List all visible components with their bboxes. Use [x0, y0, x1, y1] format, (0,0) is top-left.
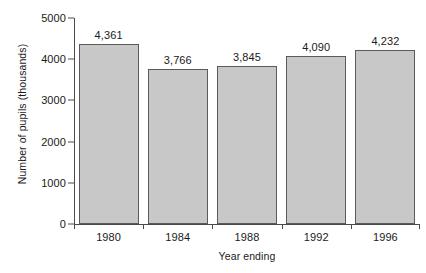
- x-axis-tick-label: 1988: [235, 231, 260, 243]
- x-axis-tick-label: 1996: [373, 231, 398, 243]
- bar-group: 4,361: [79, 18, 139, 224]
- bar-value-label: 3,766: [164, 54, 192, 66]
- plot-area: 4,3613,7663,8454,0904,232: [74, 18, 420, 224]
- x-axis-tick-mark: [212, 225, 213, 229]
- bar[interactable]: [79, 44, 139, 224]
- y-axis-tick-labels: 010002000300040005000: [22, 0, 66, 273]
- bar-value-label: 4,361: [95, 29, 123, 41]
- x-axis-tick-label: 1984: [165, 231, 190, 243]
- bar-group: 3,766: [148, 18, 208, 224]
- x-axis-tick-mark: [74, 225, 75, 229]
- x-axis-tick-mark: [351, 225, 352, 229]
- bar[interactable]: [148, 69, 208, 224]
- x-axis-title: Year ending: [74, 250, 420, 262]
- y-axis-tick-label: 0: [22, 218, 66, 230]
- x-axis-tick-label: 1980: [96, 231, 121, 243]
- bar-value-label: 4,090: [302, 41, 330, 53]
- bar[interactable]: [217, 66, 277, 224]
- x-axis-tick-mark: [419, 225, 420, 229]
- x-axis-tick-mark: [282, 225, 283, 229]
- bar-group: 4,232: [355, 18, 415, 224]
- y-axis-tick-label: 2000: [22, 136, 66, 148]
- bar[interactable]: [355, 50, 415, 224]
- y-axis-tick-label: 5000: [22, 12, 66, 24]
- bar-value-label: 3,845: [233, 51, 261, 63]
- x-axis-tick-mark: [143, 225, 144, 229]
- bar-chart: Number of pupils (thousands) 01000200030…: [0, 0, 426, 273]
- x-axis-tick-marks: [74, 225, 420, 230]
- bar-group: 4,090: [286, 18, 346, 224]
- bar[interactable]: [286, 56, 346, 225]
- x-axis-tick-labels: 19801984198819921996: [74, 231, 420, 247]
- y-axis-tick-label: 1000: [22, 177, 66, 189]
- x-axis-tick-label: 1992: [304, 231, 329, 243]
- y-axis-tick-label: 3000: [22, 94, 66, 106]
- bar-group: 3,845: [217, 18, 277, 224]
- y-axis-tick-label: 4000: [22, 53, 66, 65]
- bar-value-label: 4,232: [371, 35, 399, 47]
